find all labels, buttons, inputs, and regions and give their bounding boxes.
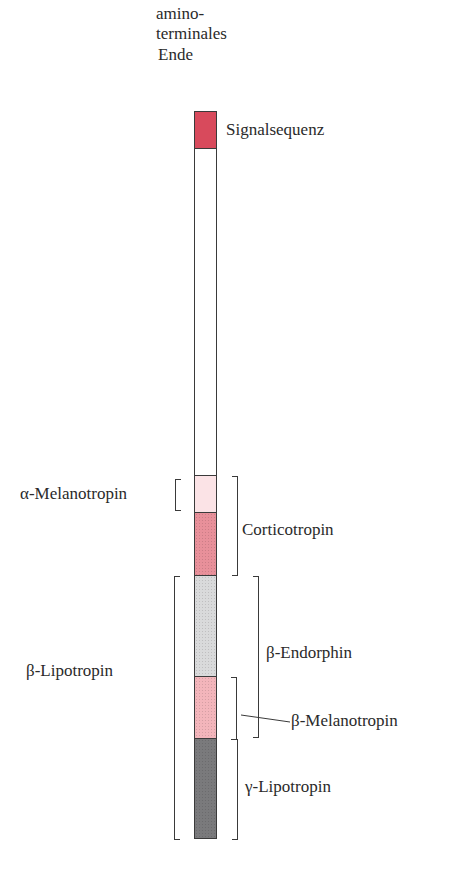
bracket-gamma-lipotropin <box>232 739 238 840</box>
label-beta-melanotropin: β-Melanotropin <box>291 711 398 731</box>
label-gamma-lipotropin: γ-Lipotropin <box>245 777 331 797</box>
leader-line <box>0 0 461 875</box>
